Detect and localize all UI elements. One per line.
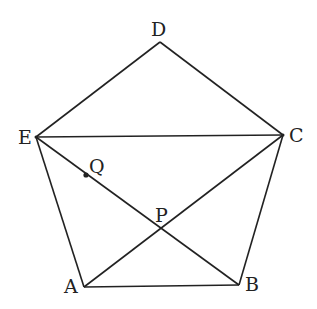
- diagram-lines: [0, 0, 317, 309]
- label-q: Q: [89, 157, 105, 176]
- segment-cd: [160, 42, 283, 135]
- segment-ec: [36, 135, 283, 137]
- point-q-dot: [83, 172, 88, 177]
- label-e: E: [18, 128, 32, 147]
- label-d: D: [151, 20, 166, 39]
- segment-eb: [36, 137, 239, 285]
- segment-de: [36, 42, 160, 137]
- segment-ac: [84, 135, 283, 287]
- pentagon-diagram: D E C Q P A B: [0, 0, 317, 309]
- segment-ab: [84, 285, 239, 287]
- segment-bc: [239, 135, 283, 285]
- segment-ea: [36, 137, 84, 287]
- point-e-dot: [35, 136, 38, 139]
- label-b: B: [245, 275, 259, 294]
- point-c-dot: [282, 134, 285, 137]
- label-a: A: [64, 277, 78, 296]
- label-c: C: [289, 126, 304, 145]
- label-p: P: [155, 206, 168, 225]
